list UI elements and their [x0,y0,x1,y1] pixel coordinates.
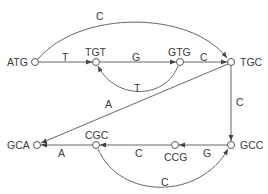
de-bruijn-graph: ATG TGT GTG TGC GCA CGC CCG GCC C T G T … [0,0,268,194]
edge-label-GTG-TGC: C [200,52,208,63]
edge-label-ATG-TGC: C [96,11,104,22]
node-CCG [172,142,179,149]
edge-label-ATG-TGT: T [62,52,68,63]
node-ATG [32,59,39,66]
node-TGC [228,59,235,66]
node-GTG [177,59,184,66]
edge-label-GCC-CCG: G [203,148,211,159]
node-GCC [228,142,235,149]
node-label-TGC: TGC [240,57,262,68]
edge-label-TGC-GCC: C [236,97,244,108]
graph-canvas [0,0,268,194]
node-CGC [93,142,100,149]
node-label-GCC: GCC [240,140,263,151]
node-label-GTG: GTG [168,47,191,58]
node-TGT [93,59,100,66]
node-label-GCA: GCA [7,140,30,151]
node-label-ATG: ATG [7,57,28,68]
edge-label-TGC-GCA: A [105,99,112,110]
edge-label-GTG-TGT: T [134,83,140,94]
node-label-CCG: CCG [164,152,187,163]
edge-label-TGT-GTG: G [132,52,140,63]
edge-label-CGC-GCC: C [161,177,169,188]
edge-label-CCG-CGC: C [135,148,143,159]
node-GCA [34,142,41,149]
edge-TGC-GCA [41,64,228,143]
node-label-CGC: CGC [85,130,108,141]
node-label-TGT: TGT [85,47,106,58]
edge-label-CGC-GCA: A [58,148,65,159]
